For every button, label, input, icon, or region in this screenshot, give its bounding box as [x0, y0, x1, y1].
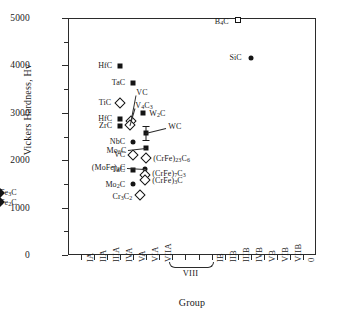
- y-axis-tick: [62, 208, 68, 209]
- x-axis-tick-label-0: 0: [306, 258, 316, 262]
- y-axis-minor-tick: [64, 89, 68, 90]
- y-axis-tick-label: 1000: [10, 203, 30, 213]
- data-point-TaC-a: [131, 81, 136, 86]
- data-point-Mo2C-b: [131, 181, 136, 186]
- x-axis-tick: [94, 255, 95, 260]
- x-axis-tick: [172, 255, 173, 260]
- x-axis-tick-label-VB: VB: [267, 250, 277, 262]
- x-axis-tick: [225, 255, 226, 260]
- data-label-B4C: B4C: [215, 18, 229, 26]
- y-axis-minor-tick: [64, 42, 68, 43]
- data-label-HfC-a: HfC: [98, 62, 112, 70]
- x-axis-tick-label-IIB: IIB: [228, 250, 238, 262]
- data-point-W2C: [141, 110, 146, 115]
- plot-area: [68, 18, 316, 255]
- group-viii-label: VIII: [169, 268, 212, 278]
- x-axis-tick-label-VIIB: VIIB: [293, 244, 303, 262]
- y-axis-tick-label: 3000: [10, 108, 30, 118]
- y-axis-minor-tick: [64, 137, 68, 138]
- y-axis-tick: [62, 255, 68, 256]
- x-axis-tick: [303, 255, 304, 260]
- x-axis-tick: [120, 255, 121, 260]
- y-axis-tick: [62, 160, 68, 161]
- error-bar-cap: [143, 126, 150, 127]
- data-point-HfC-b: [118, 117, 123, 122]
- data-label-SiC: SiC: [229, 54, 241, 62]
- x-axis-tick-label-IIIA: IIIA: [111, 247, 121, 262]
- data-label-TaC-a: TaC: [112, 79, 126, 87]
- y-axis-tick: [62, 113, 68, 114]
- data-point-SiC: [248, 56, 253, 61]
- data-label-TiC: TiC: [99, 99, 111, 107]
- y-axis-tick-label: 2000: [10, 155, 30, 165]
- data-label-(CrFe)3C: (CrFe)3C: [152, 177, 182, 185]
- data-label-(MoFe)2C: (MoFe)2C: [92, 164, 126, 172]
- data-label-NbC: NbC: [110, 138, 125, 146]
- x-axis-tick-label-IA: IA: [85, 253, 95, 262]
- x-axis-tick: [107, 255, 108, 260]
- x-axis-tick-label-VIB: VIB: [280, 247, 290, 262]
- x-axis-tick-label-IIA: IIA: [98, 250, 108, 262]
- y-axis-minor-tick: [64, 231, 68, 232]
- data-label-VC: VC: [136, 89, 147, 97]
- data-point-NbC: [131, 140, 136, 145]
- x-axis-tick: [199, 255, 200, 260]
- data-label-Cr3C2: Cr3C2: [112, 193, 132, 201]
- x-axis-tick-label-VA: VA: [137, 250, 147, 262]
- y-axis-tick: [62, 65, 68, 66]
- x-axis-tick: [251, 255, 252, 260]
- x-axis-tick: [212, 255, 213, 260]
- y-axis-minor-tick: [64, 184, 68, 185]
- y-axis-tick-label: 0: [25, 250, 30, 260]
- y-axis-tick: [62, 18, 68, 19]
- data-point-ZrC: [118, 124, 123, 129]
- data-label-Mo2C-b: Mo2C: [105, 181, 125, 189]
- x-axis-tick-label-IIIB: IIIB: [241, 247, 251, 262]
- data-label-Fe3C: Fe3C: [0, 189, 17, 197]
- x-axis-label: Group: [68, 297, 316, 308]
- x-axis-tick-label-VIIA: VIIA: [163, 243, 173, 262]
- x-axis-tick: [290, 255, 291, 260]
- x-axis-tick: [81, 255, 82, 260]
- x-axis-tick-label-IVA: IVA: [124, 247, 134, 262]
- vickers-hardness-chart: Vickers Hardness, Hv Group VIII B4CSiCHf…: [0, 0, 349, 315]
- data-label-WC: WC: [168, 123, 181, 131]
- data-label-VC-b: VC: [114, 151, 125, 159]
- x-axis-tick: [159, 255, 160, 260]
- x-axis-tick-label-VIA: VIA: [150, 246, 160, 262]
- y-axis-tick-label: 4000: [10, 60, 30, 70]
- x-axis-tick: [238, 255, 239, 260]
- data-point-HfC-a: [118, 64, 123, 69]
- data-point-B4C: [235, 17, 241, 23]
- data-label-W2C: W2C: [149, 110, 165, 118]
- data-label-ZrC: ZrC: [99, 122, 112, 130]
- y-axis-tick-label: 5000: [10, 13, 30, 23]
- x-axis-tick: [133, 255, 134, 260]
- x-axis-tick-label-IVB: IVB: [254, 247, 264, 262]
- x-axis-tick: [146, 255, 147, 260]
- x-axis-tick: [264, 255, 265, 260]
- data-label-(CrFe)23C6: (CrFe)23C6: [153, 155, 190, 163]
- x-axis-tick: [185, 255, 186, 260]
- error-bar-cap: [143, 140, 150, 141]
- x-axis-tick-label-IB: IB: [215, 253, 225, 262]
- x-axis-tick: [277, 255, 278, 260]
